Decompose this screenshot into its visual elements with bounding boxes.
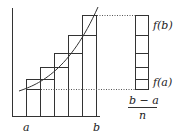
function-curve — [19, 7, 98, 91]
label-width-denominator: n — [139, 109, 146, 122]
label-fb: f(b) — [152, 19, 173, 32]
label-width-numerator: b − a — [129, 94, 159, 107]
label-a: a — [23, 121, 30, 134]
riemann-diagram: f(b) f(a) a b b − a n — [0, 0, 187, 136]
label-fa: f(a) — [152, 76, 172, 89]
rectangle-5 — [83, 16, 97, 117]
stacked-rectangles — [136, 16, 149, 90]
label-b: b — [93, 121, 100, 134]
rectangle-3 — [55, 54, 69, 117]
rectangle-2 — [41, 68, 55, 117]
